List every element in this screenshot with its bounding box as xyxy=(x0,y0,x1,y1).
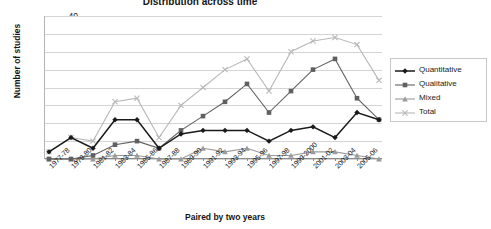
data-point-marker xyxy=(113,142,118,147)
legend-label: Quantitative xyxy=(416,65,462,74)
series-line xyxy=(49,59,379,159)
data-point-marker xyxy=(178,103,183,108)
data-point-marker xyxy=(200,128,205,133)
legend-item-mixed[interactable]: Mixed xyxy=(394,90,484,104)
legend-cross-icon xyxy=(394,105,416,117)
data-point-marker xyxy=(201,114,206,119)
data-point-marker xyxy=(266,138,271,143)
series-layer xyxy=(45,16,383,159)
series-qualitative xyxy=(47,57,382,162)
data-point-marker xyxy=(289,89,294,94)
legend-diamond-icon xyxy=(394,63,416,75)
data-point-marker xyxy=(222,128,227,133)
data-point-marker xyxy=(288,128,293,133)
chart-legend: QuantitativeQualitativeMixedTotal xyxy=(390,58,487,122)
data-point-marker xyxy=(223,100,228,105)
legend-label: Qualitative xyxy=(416,79,457,88)
plot-area xyxy=(44,16,382,159)
data-point-marker xyxy=(222,67,227,72)
data-point-marker xyxy=(266,88,271,93)
data-point-marker xyxy=(135,139,140,144)
data-point-marker xyxy=(333,57,338,62)
y-axis-title: Number of studies xyxy=(12,13,22,109)
data-point-marker xyxy=(310,124,315,129)
data-point-marker xyxy=(311,67,316,72)
data-point-marker xyxy=(200,85,205,90)
legend-item-qualitative[interactable]: Qualitative xyxy=(394,76,484,90)
data-point-marker xyxy=(244,56,249,61)
data-point-marker xyxy=(355,96,360,101)
legend-label: Total xyxy=(416,107,436,116)
data-point-marker xyxy=(245,82,250,87)
chart-title: Distribution across time xyxy=(0,0,400,7)
x-axis-title: Paired by two years xyxy=(60,212,390,222)
data-point-marker xyxy=(288,49,293,54)
data-point-marker xyxy=(354,42,359,47)
data-point-marker xyxy=(156,135,161,140)
data-point-marker xyxy=(244,128,249,133)
legend-triangle-icon xyxy=(394,91,416,103)
legend-label: Mixed xyxy=(416,93,440,102)
legend-item-quantitative[interactable]: Quantitative xyxy=(394,62,484,76)
data-point-marker xyxy=(267,110,272,115)
legend-item-total[interactable]: Total xyxy=(394,104,484,118)
data-point-marker xyxy=(376,78,381,83)
legend-square-icon xyxy=(394,77,416,89)
chart-container: Distribution across time Number of studi… xyxy=(0,0,491,229)
